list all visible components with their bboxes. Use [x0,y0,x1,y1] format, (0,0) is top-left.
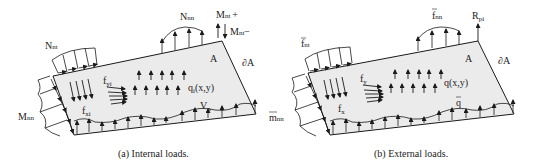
label-fnn-bar: fnn [432,9,443,21]
panel-a-internal-loads: Nnt Nnn Mnt+ Mnt− A ∂A fyi fxi qi(x,y) V… [18,9,256,160]
label-mnt-plus: Mnt+ [216,9,238,20]
label-q: q(x,y) [444,77,468,89]
label-mnn: Mnn [18,111,34,122]
label-mnt-minus: Mnt− [230,26,250,37]
svg-text:fnt: fnt [301,38,310,49]
svg-text:mnn: mnn [269,112,284,123]
caption-b: (b) External loads. [374,148,448,160]
label-fnt-bar: fnt [301,38,310,49]
svg-text:q: q [456,97,461,108]
label-nnn: Nnn [180,11,195,22]
caption-a: (a) Internal loads. [118,148,189,160]
label-boundary-a: ∂A [242,57,255,68]
label-region-b: A [465,53,473,64]
label-mnn-bar: mnn [269,112,284,123]
panel-b-external-loads: fnt fnn Rpi A ∂A fy fx q(x,y) q mnn (b) … [269,9,514,160]
label-rpi: Rpi [472,10,484,23]
label-boundary-b: ∂A [498,55,511,66]
svg-text:fnn: fnn [432,10,443,21]
label-qbar: q [456,97,461,108]
plate-loads-figure: Nnt Nnn Mnt+ Mnt− A ∂A fyi fxi qi(x,y) V… [0,0,533,165]
label-region-a: A [210,53,218,64]
corner-moment-arrows [218,24,225,38]
label-nnt: Nnt [45,40,58,51]
